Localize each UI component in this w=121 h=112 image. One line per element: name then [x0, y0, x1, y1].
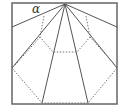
dotted-fold-lines: [12, 16, 117, 103]
angle-label: α: [32, 2, 40, 16]
folding-diagram: [0, 0, 121, 112]
solid-fold-lines: [12, 4, 117, 103]
square-outline: [12, 3, 117, 104]
